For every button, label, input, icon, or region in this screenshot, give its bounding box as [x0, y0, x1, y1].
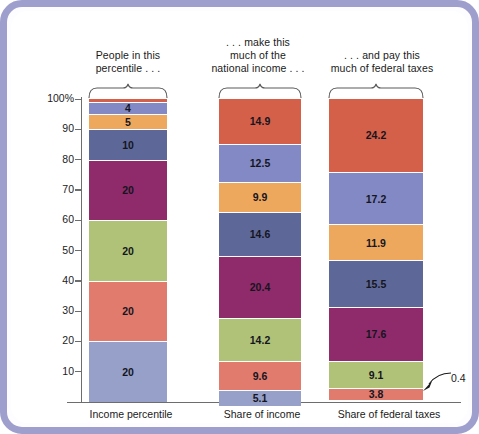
brace-icon-people: [87, 83, 169, 99]
figure-canvas: People in this percentile . . . . . . ma…: [11, 11, 468, 423]
bar-segment: 11.9: [329, 224, 423, 260]
bar-segment-label: 20: [122, 367, 134, 378]
bar-segment-label: 14.9: [250, 116, 270, 127]
column-header-income: . . . make this much of the national inc…: [197, 36, 319, 75]
callout-label-0-4: 0.4: [451, 372, 466, 384]
bar-share-of-federal-taxes: 24.217.211.915.517.69.13.80.4: [329, 99, 423, 402]
bar-share-of-income: 14.912.59.914.620.414.29.65.1: [219, 99, 301, 402]
bar-segment-label: 24.2: [366, 130, 386, 141]
bar-segment: 14.2: [219, 318, 301, 361]
y-tick-label: 10: [22, 365, 74, 377]
y-tick-label: 90: [22, 122, 74, 134]
header-line: national income . . .: [197, 62, 319, 75]
header-line: . . . make this: [197, 36, 319, 49]
bar-segment: 9.1: [329, 361, 423, 389]
header-line: much of federal taxes: [311, 62, 453, 75]
bar-segment-label: 20: [122, 306, 134, 317]
y-tick-label: 60: [22, 213, 74, 225]
bar-segment-label: 20.4: [250, 282, 270, 293]
y-tick: [75, 280, 82, 281]
bar-income-percentile: 1451020202020: [89, 99, 167, 402]
y-tick: [75, 311, 82, 312]
bar-segment: 3.8: [329, 388, 423, 400]
y-tick: [75, 129, 82, 130]
bar-segment-label: 17.2: [366, 194, 386, 205]
y-tick-label: 20: [22, 334, 74, 346]
bar-segment: 10: [89, 129, 167, 159]
x-axis-label-share-of-federal-taxes: Share of federal taxes: [316, 408, 462, 420]
bar-segment: 5: [89, 114, 167, 129]
header-line: percentile . . .: [74, 62, 182, 75]
bar-segment: 20: [89, 160, 167, 221]
column-header-taxes: . . . and pay this much of federal taxes: [311, 49, 453, 75]
bar-segment-label: 17.6: [366, 329, 386, 340]
leader-arrow-icon: [415, 369, 455, 395]
bar-segment: 12.5: [219, 144, 301, 182]
bar-segment-label: 5.1: [253, 393, 268, 404]
bar-segment: 9.6: [219, 361, 301, 390]
y-tick-label: 50: [22, 244, 74, 256]
bar-segment-label: 4: [125, 103, 131, 114]
bar-segment: 20.4: [219, 256, 301, 318]
bar-segment-label: 5: [125, 117, 131, 128]
bar-segment: 15.5: [329, 260, 423, 307]
bar-segment-label: 9.6: [253, 371, 268, 382]
y-tick: [75, 189, 82, 190]
y-tick-label: 40: [22, 274, 74, 286]
bar-segment-label: 11.9: [366, 238, 386, 249]
bar-segment-label: 15.5: [366, 279, 386, 290]
figure-frame: People in this percentile . . . . . . ma…: [0, 0, 479, 434]
bar-segment: 17.2: [329, 172, 423, 224]
bar-segment: 14.6: [219, 212, 301, 256]
bar-segment: 14.9: [219, 99, 301, 144]
y-tick-label: 70: [22, 183, 74, 195]
y-tick: [75, 220, 82, 221]
bar-segment-label: 3.8: [369, 389, 384, 400]
bar-segment: 5.1: [219, 390, 301, 405]
bar-segment-label: 20: [122, 246, 134, 257]
bar-segment-label: 14.6: [250, 229, 270, 240]
bar-segment: 24.2: [329, 99, 423, 172]
bar-segment: 17.6: [329, 307, 423, 360]
y-tick-label: 30: [22, 304, 74, 316]
x-axis-label-income-percentile: Income percentile: [61, 408, 201, 420]
y-tick: [75, 250, 82, 251]
bar-segment-label: 9.1: [369, 370, 384, 381]
bar-segment: 0.4: [329, 400, 423, 401]
header-line: People in this: [74, 49, 182, 62]
header-line: . . . and pay this: [311, 49, 453, 62]
brace-icon-income: [217, 83, 303, 99]
bar-segment-label: 12.5: [250, 158, 270, 169]
y-tick-label: 80: [22, 153, 74, 165]
bar-segment: 20: [89, 220, 167, 281]
bar-segment: 20: [89, 281, 167, 342]
bar-segment: 4: [89, 102, 167, 114]
column-header-people: People in this percentile . . .: [74, 49, 182, 75]
y-tick: [75, 159, 82, 160]
bar-segment-label: 14.2: [250, 335, 270, 346]
bar-segment-label: 9.9: [253, 192, 268, 203]
bar-segment-label: 10: [122, 140, 134, 151]
bar-segment-label: 20: [122, 185, 134, 196]
bar-segment: 9.9: [219, 182, 301, 212]
y-tick: [75, 99, 82, 100]
x-axis-label-share-of-income: Share of income: [207, 408, 317, 420]
brace-icon-taxes: [327, 83, 425, 99]
y-tick-label: 100%: [22, 92, 74, 104]
bar-segment: 20: [89, 341, 167, 402]
y-tick: [75, 341, 82, 342]
y-tick: [75, 371, 82, 372]
header-line: much of the: [197, 49, 319, 62]
